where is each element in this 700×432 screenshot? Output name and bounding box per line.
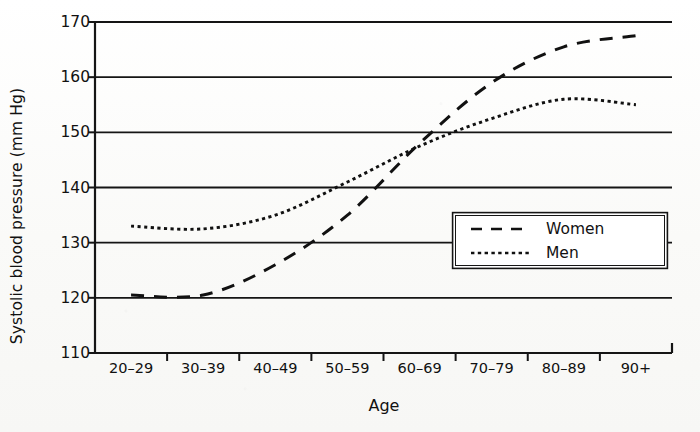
x-tick-label: 30–39 bbox=[181, 360, 225, 376]
tick-marks bbox=[88, 22, 600, 361]
x-tick-label: 70–79 bbox=[470, 360, 514, 376]
x-axis-title: Age bbox=[95, 396, 673, 415]
x-axis-tick-labels: 20–2930–3940–4950–5960–6970–7980–8990+ bbox=[95, 360, 673, 386]
chart-figure: Systolic blood pressure (mm Hg) 11012013… bbox=[0, 0, 700, 432]
legend-label-women: Women bbox=[546, 220, 604, 238]
gridlines bbox=[95, 22, 672, 353]
x-tick-label: 20–29 bbox=[109, 360, 153, 376]
legend-item-men: Men bbox=[456, 240, 664, 265]
x-tick-label: 40–49 bbox=[253, 360, 297, 376]
x-tick-label: 80–89 bbox=[542, 360, 586, 376]
chart-legend: Women Men bbox=[455, 215, 665, 266]
series-line-men bbox=[131, 99, 636, 230]
legend-item-women: Women bbox=[456, 216, 664, 241]
x-tick-label: 90+ bbox=[621, 360, 652, 376]
legend-label-men: Men bbox=[546, 244, 579, 262]
legend-swatch-dashed bbox=[469, 222, 533, 236]
x-tick-label: 50–59 bbox=[325, 360, 369, 376]
x-tick-label: 60–69 bbox=[397, 360, 441, 376]
legend-swatch-dotted bbox=[469, 246, 533, 260]
